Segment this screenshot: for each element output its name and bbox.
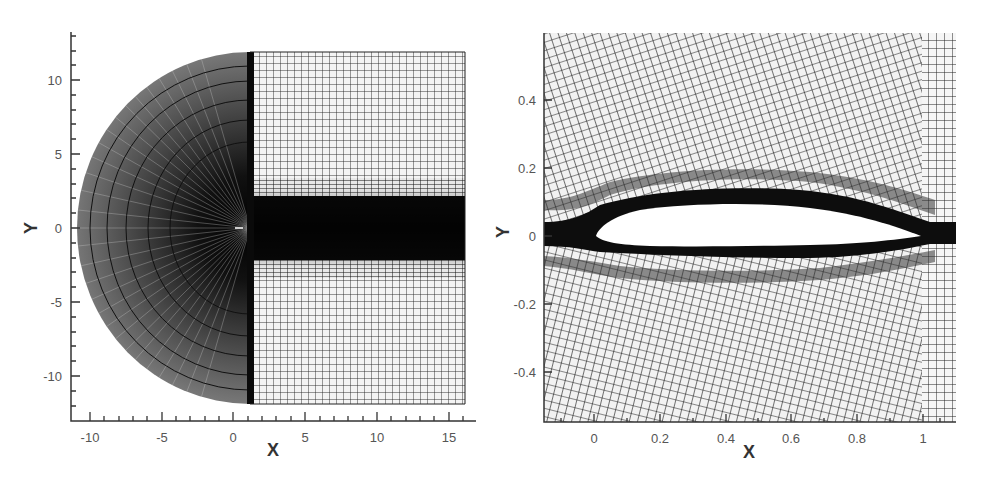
left-mesh [77,52,465,404]
left-xtick-label: 0 [229,430,236,445]
airfoil-marker [235,227,243,229]
right-mesh-plot: 0.4 0.2 0 -0.2 -0.4 0 0.2 0.4 0.6 0.8 1 … [493,33,956,462]
right-x-axis-label: X [743,442,755,462]
right-xtick-label: 1 [919,431,926,446]
left-y-axis-label: Y [21,222,41,234]
left-x-axis-label: X [267,440,279,460]
left-x-ticks [90,412,463,421]
left-ytick-label: 5 [55,147,62,162]
right-ytick-label: 0.2 [518,161,536,176]
left-xtick-label: 10 [370,430,384,445]
right-mesh [544,33,956,422]
left-ytick-label: 0 [55,221,62,236]
left-xtick-label: 5 [301,430,308,445]
right-xtick-label: 0.4 [717,431,735,446]
right-xtick-label: 0.6 [782,431,800,446]
left-ytick-label: -5 [50,295,62,310]
left-ytick-label: -10 [43,369,62,384]
left-mesh-plot: 10 5 0 -5 -10 -10 -5 0 5 10 15 X Y [21,32,476,460]
right-ytick-label: -0.4 [514,365,536,380]
left-ytick-label: 10 [48,73,62,88]
left-xtick-label: -5 [156,430,168,445]
right-ytick-label: -0.2 [514,297,536,312]
left-xtick-label: 15 [442,430,456,445]
right-ytick-label: 0.4 [518,93,536,108]
right-xtick-label: 0.2 [651,431,669,446]
figure: 10 5 0 -5 -10 -10 -5 0 5 10 15 X Y [0,0,987,481]
right-xtick-label: 0.8 [848,431,866,446]
right-xtick-label: 0 [590,431,597,446]
right-ytick-label: 0 [529,229,536,244]
right-y-axis-label: Y [493,226,513,238]
left-xtick-label: -10 [81,430,100,445]
